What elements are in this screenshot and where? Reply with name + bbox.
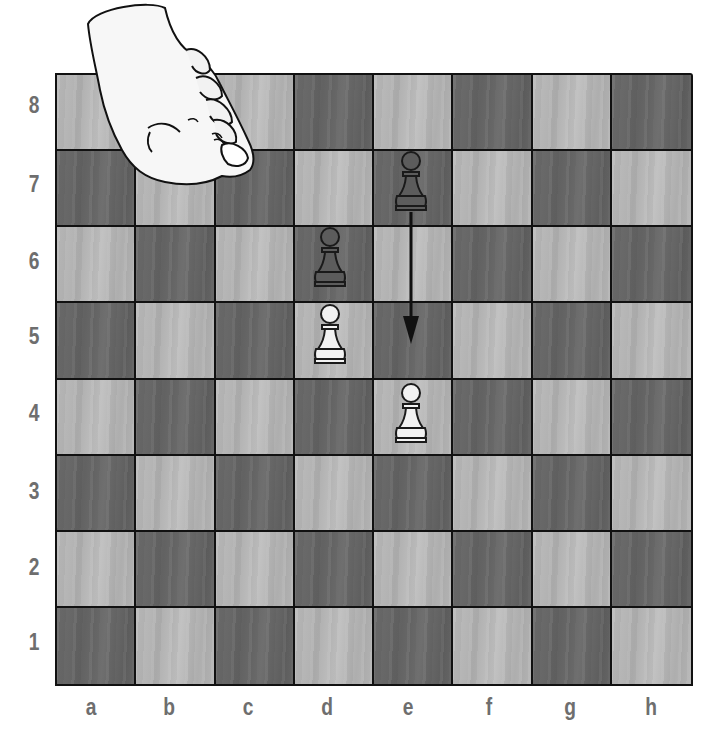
file-label-g: g (558, 693, 582, 721)
square-c4[interactable] (216, 380, 295, 456)
square-a1[interactable] (57, 608, 136, 684)
file-label-a: a (79, 693, 103, 721)
square-c7[interactable] (216, 151, 295, 227)
square-d2[interactable] (295, 532, 374, 608)
square-b3[interactable] (136, 456, 215, 532)
square-f4[interactable] (453, 380, 532, 456)
chess-board (55, 73, 693, 686)
file-label-e: e (396, 693, 420, 721)
file-label-h: h (639, 693, 663, 721)
square-b4[interactable] (136, 380, 215, 456)
square-d3[interactable] (295, 456, 374, 532)
rank-label-2: 2 (22, 553, 46, 581)
rank-label-7: 7 (22, 170, 46, 198)
black-pawn-e7[interactable] (386, 148, 436, 218)
file-label-f: f (477, 693, 501, 721)
square-f7[interactable] (453, 151, 532, 227)
square-c8[interactable] (216, 75, 295, 151)
square-e6[interactable] (374, 227, 453, 303)
square-f6[interactable] (453, 227, 532, 303)
rank-label-3: 3 (22, 477, 46, 505)
square-f8[interactable] (453, 75, 532, 151)
square-c6[interactable] (216, 227, 295, 303)
square-f5[interactable] (453, 303, 532, 379)
square-a3[interactable] (57, 456, 136, 532)
square-a6[interactable] (57, 227, 136, 303)
white-pawn-e4[interactable] (386, 380, 436, 450)
file-label-d: d (315, 693, 339, 721)
square-c3[interactable] (216, 456, 295, 532)
square-h1[interactable] (612, 608, 691, 684)
rank-label-4: 4 (22, 399, 46, 427)
square-e2[interactable] (374, 532, 453, 608)
rank-label-8: 8 (22, 91, 46, 119)
square-f1[interactable] (453, 608, 532, 684)
file-label-c: c (236, 693, 260, 721)
square-g8[interactable] (533, 75, 612, 151)
square-h4[interactable] (612, 380, 691, 456)
square-e1[interactable] (374, 608, 453, 684)
square-g7[interactable] (533, 151, 612, 227)
square-a4[interactable] (57, 380, 136, 456)
square-h6[interactable] (612, 227, 691, 303)
square-b2[interactable] (136, 532, 215, 608)
file-label-b: b (157, 693, 181, 721)
square-c5[interactable] (216, 303, 295, 379)
square-g2[interactable] (533, 532, 612, 608)
square-b6[interactable] (136, 227, 215, 303)
rank-label-1: 1 (22, 628, 46, 656)
square-a2[interactable] (57, 532, 136, 608)
square-b7[interactable] (136, 151, 215, 227)
square-g5[interactable] (533, 303, 612, 379)
square-f3[interactable] (453, 456, 532, 532)
square-c1[interactable] (216, 608, 295, 684)
square-b8[interactable] (136, 75, 215, 151)
square-h8[interactable] (612, 75, 691, 151)
chess-diagram: 8 7 6 5 4 3 2 1 a b c d e f g h (0, 0, 715, 739)
square-e5[interactable] (374, 303, 453, 379)
square-g6[interactable] (533, 227, 612, 303)
square-h2[interactable] (612, 532, 691, 608)
square-b5[interactable] (136, 303, 215, 379)
square-h3[interactable] (612, 456, 691, 532)
square-g3[interactable] (533, 456, 612, 532)
square-h5[interactable] (612, 303, 691, 379)
rank-label-5: 5 (22, 322, 46, 350)
square-d1[interactable] (295, 608, 374, 684)
square-g1[interactable] (533, 608, 612, 684)
black-pawn-d6[interactable] (305, 224, 355, 294)
square-e3[interactable] (374, 456, 453, 532)
square-b1[interactable] (136, 608, 215, 684)
square-f2[interactable] (453, 532, 532, 608)
square-a7[interactable] (57, 151, 136, 227)
square-d7[interactable] (295, 151, 374, 227)
square-e8[interactable] (374, 75, 453, 151)
square-c2[interactable] (216, 532, 295, 608)
square-h7[interactable] (612, 151, 691, 227)
square-a5[interactable] (57, 303, 136, 379)
white-pawn-d5[interactable] (305, 301, 355, 371)
square-d8[interactable] (295, 75, 374, 151)
square-d4[interactable] (295, 380, 374, 456)
square-g4[interactable] (533, 380, 612, 456)
square-a8[interactable] (57, 75, 136, 151)
rank-label-6: 6 (22, 247, 46, 275)
